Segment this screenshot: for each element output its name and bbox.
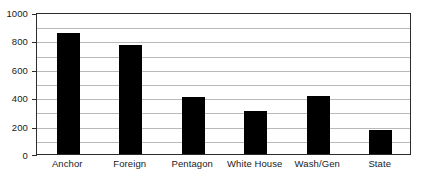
y-axis-tick <box>32 71 37 72</box>
gridline <box>37 28 410 29</box>
x-axis-tick-label: White House <box>227 159 282 169</box>
x-axis-tick-label: State <box>368 159 391 169</box>
gridline <box>37 42 410 43</box>
bar <box>119 45 142 154</box>
bar <box>57 33 80 154</box>
x-axis-tick-label: Pentagon <box>172 159 213 169</box>
plot-area: 02004006008001000 <box>36 13 411 155</box>
gridline <box>37 99 410 100</box>
y-axis-tick <box>32 42 37 43</box>
bar <box>369 130 392 154</box>
bar <box>307 96 330 154</box>
y-axis-tick-label: 600 <box>12 66 28 76</box>
y-axis-tick-label: 1000 <box>6 9 28 19</box>
y-axis-tick-label: 200 <box>12 123 28 133</box>
y-axis-tick <box>32 128 37 129</box>
y-axis-tick <box>32 14 37 15</box>
y-axis-tick-label: 400 <box>12 94 28 104</box>
bar <box>182 97 205 155</box>
gridline <box>37 57 410 58</box>
gridline <box>37 85 410 86</box>
x-axis-tick-label: Wash/Gen <box>295 159 340 169</box>
gridline <box>37 128 410 129</box>
gridline <box>37 142 410 143</box>
bar <box>244 111 267 154</box>
bar-chart: 02004006008001000 AnchorForeignPentagonW… <box>0 0 422 189</box>
x-axis-tick-label: Foreign <box>113 159 146 169</box>
gridline <box>37 113 410 114</box>
y-axis-tick <box>32 155 37 156</box>
x-axis-tick-label: Anchor <box>52 159 83 169</box>
y-axis-tick-label: 800 <box>12 38 28 48</box>
gridline <box>37 71 410 72</box>
y-axis-tick <box>32 99 37 100</box>
y-axis-tick-label: 0 <box>23 151 28 161</box>
